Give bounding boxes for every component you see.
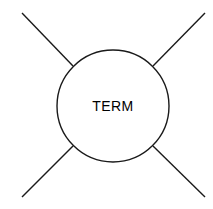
- term-node-diagram: TERM: [0, 0, 213, 209]
- term-node-label: TERM: [92, 98, 133, 114]
- diagram-canvas: TERM: [0, 0, 213, 209]
- connector-line-top-right: [153, 13, 205, 66]
- connector-line-top-left: [22, 13, 73, 66]
- connector-line-bottom-right: [153, 146, 205, 197]
- connector-line-bottom-left: [22, 146, 73, 197]
